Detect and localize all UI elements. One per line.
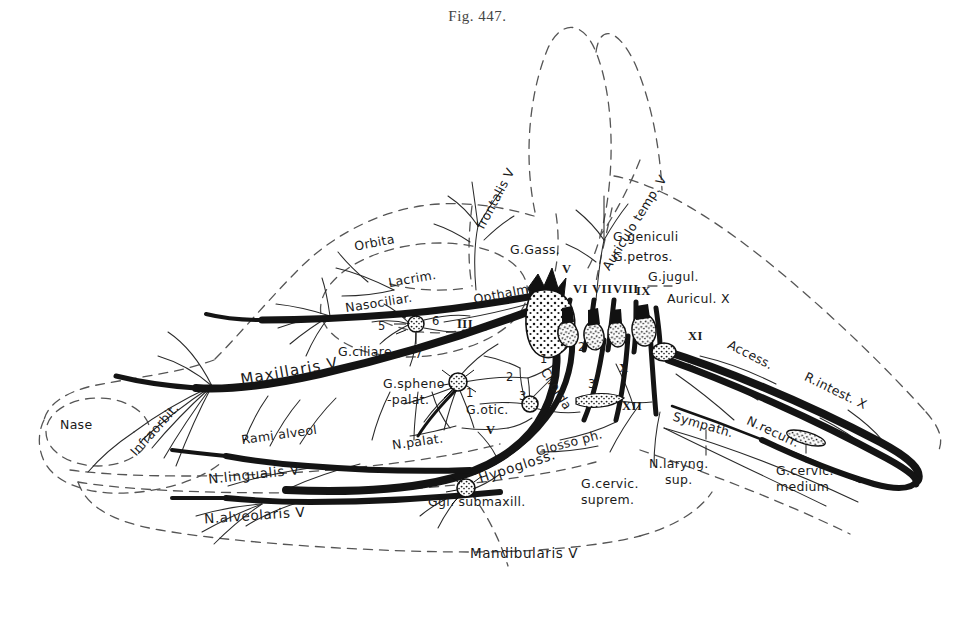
root-cap-viii — [611, 309, 622, 324]
root-cap-vii — [588, 308, 600, 326]
face-contour-upper — [214, 204, 534, 360]
anatomical-diagram — [0, 0, 955, 626]
branch-cervic-sup — [654, 412, 660, 466]
dashed-outlines — [39, 27, 940, 566]
branch-infraorb-c — [152, 386, 212, 448]
branch-frontalis-e — [484, 216, 514, 240]
branch-otic-a — [480, 403, 526, 405]
branch-hypogloss-a — [560, 422, 616, 440]
branch-alveol-a — [196, 504, 262, 516]
root-cap-vi — [562, 306, 574, 324]
root-x — [656, 308, 660, 346]
branch-rami-c — [244, 396, 268, 442]
ganglion-cervic-suprem — [652, 343, 676, 361]
ganglion-otic — [522, 396, 538, 412]
branch-frontalis-trunk — [475, 226, 478, 290]
branch-infraorb-d — [164, 386, 212, 458]
ganglion-sphenopalat — [449, 373, 467, 391]
trunk-maxillaris-tip — [116, 376, 196, 388]
ganglion-submaxill — [457, 479, 475, 497]
branch-rami-a — [300, 398, 336, 444]
branch-lacrim-c — [338, 252, 368, 282]
ganglion-ciliare — [408, 316, 424, 332]
branch-infraorb-f — [168, 332, 212, 386]
branch-alveol-d — [246, 502, 300, 526]
branch-infraorb-b — [142, 386, 212, 440]
branch-lingual-a — [228, 468, 310, 486]
head-contour-lower — [926, 412, 941, 452]
branch-otic-d — [484, 356, 520, 368]
branch-nasocil-a — [276, 304, 330, 316]
branch-spheno-c — [458, 386, 474, 428]
branch-spheno-f — [464, 377, 528, 382]
branch-lacrim-b — [342, 290, 394, 296]
submax-connector — [470, 492, 508, 566]
branch-hypogloss-b — [540, 446, 598, 452]
trunk-vagus-descend — [616, 336, 628, 420]
branch-rami-e — [414, 392, 418, 440]
branch-rami-b — [270, 400, 300, 446]
auriculo-dash — [600, 160, 640, 236]
branch-auricotemp-trunk — [596, 240, 604, 300]
head-contour — [614, 176, 926, 412]
branch-frontalis-a — [448, 196, 478, 226]
nose-outline — [39, 420, 222, 493]
branch-palat-b — [462, 428, 508, 430]
branch-auricotemp-d — [566, 244, 596, 262]
branch-palat-c — [508, 418, 532, 428]
trunk-palatinus — [418, 388, 458, 436]
figure-page: Fig. 447. — [0, 0, 955, 626]
ear-outline — [529, 27, 611, 268]
branch-ciliary-b — [380, 324, 410, 344]
branch-rami-d — [372, 392, 390, 440]
branch-cervic-sup-2 — [610, 404, 640, 452]
mandible-ramus-outline — [640, 492, 712, 536]
thick-nerve-trunks — [116, 296, 919, 502]
ear-inner-outline — [596, 34, 662, 190]
trunk-vagus-main — [668, 360, 916, 484]
branch-frontalis-d — [434, 224, 470, 242]
orbit-connector — [390, 284, 468, 290]
branch-palat-d — [478, 432, 496, 456]
trunk-lingualis — [226, 456, 470, 471]
branch-spheno-e — [458, 344, 498, 378]
root-cap-ix — [636, 304, 650, 320]
trunk-mandibular-curve — [286, 312, 557, 491]
